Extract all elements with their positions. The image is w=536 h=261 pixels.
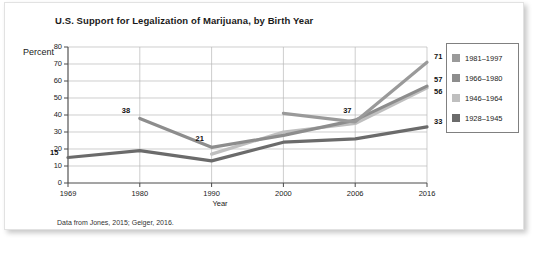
y-tick-label: 0 (40, 178, 62, 187)
y-tick-label: 50 (40, 93, 62, 102)
source-note: Data from Jones, 2015; Geiger, 2016. (57, 219, 174, 226)
figure-card: U.S. Support for Legalization of Marijua… (4, 2, 524, 230)
x-tick-label: 2016 (404, 189, 450, 198)
x-tick-label: 1969 (45, 189, 91, 198)
data-point-label: 15 (50, 148, 58, 157)
legend-item[interactable]: 1966–1980 (452, 68, 515, 88)
data-point-label: 57 (434, 75, 442, 84)
data-point-label: 33 (434, 117, 442, 126)
y-tick-label: 80 (40, 42, 62, 51)
x-tick-label: 2000 (260, 189, 306, 198)
data-point-label: 21 (196, 134, 204, 143)
y-tick-label: 60 (40, 76, 62, 85)
y-tick-label: 30 (40, 127, 62, 136)
x-tick-label: 1990 (189, 189, 235, 198)
x-tick-label: 2006 (332, 189, 378, 198)
legend-item-label: 1981–1997 (465, 54, 503, 63)
data-point-label: 56 (434, 87, 442, 96)
legend-item-label: 1928–1945 (465, 114, 503, 123)
legend-swatch-icon (452, 54, 460, 62)
legend-item[interactable]: 1981–1997 (452, 48, 515, 68)
data-point-label: 38 (122, 106, 130, 115)
chart-legend: 1981–19971966–19801946–19641928–1945 (446, 43, 519, 133)
legend-swatch-icon (452, 94, 460, 102)
legend-item-label: 1946–1964 (465, 94, 503, 103)
legend-swatch-icon (452, 74, 460, 82)
legend-item[interactable]: 1946–1964 (452, 88, 515, 108)
data-point-label: 71 (434, 52, 442, 61)
data-point-label: 37 (343, 106, 351, 115)
legend-swatch-icon (452, 114, 460, 122)
legend-item[interactable]: 1928–1945 (452, 108, 515, 128)
y-tick-label: 70 (40, 59, 62, 68)
x-tick-label: 1980 (117, 189, 163, 198)
x-axis-title: Year (5, 199, 435, 208)
legend-item-label: 1966–1980 (465, 74, 503, 83)
y-tick-label: 10 (40, 161, 62, 170)
y-tick-label: 40 (40, 110, 62, 119)
